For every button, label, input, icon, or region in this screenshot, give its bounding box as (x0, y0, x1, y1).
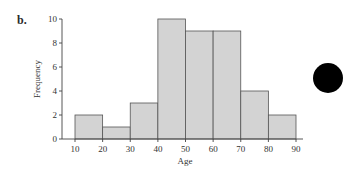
histogram-bar (103, 127, 131, 139)
x-tick-label: 70 (236, 144, 246, 154)
y-axis-title: Frequency (32, 60, 42, 98)
histogram-bars (75, 19, 296, 139)
histogram-bar (130, 103, 158, 139)
y-tick-label: 4 (53, 86, 58, 96)
x-tick-label: 90 (292, 144, 302, 154)
y-tick-label: 8 (53, 38, 58, 48)
y-tick-label: 2 (53, 110, 58, 120)
x-tick-label: 80 (264, 144, 274, 154)
histogram-bar (75, 115, 103, 139)
histogram-bar (268, 115, 296, 139)
y-tick-label: 10 (48, 14, 58, 24)
x-axis-title: Age (178, 156, 193, 166)
black-circle-marker (313, 63, 343, 93)
y-tick-label: 6 (53, 62, 58, 72)
x-tick-label: 60 (209, 144, 219, 154)
histogram-chart: 0246810102030405060708090 Age Frequency (0, 0, 360, 176)
histogram-bar (158, 19, 186, 139)
histogram-bar (186, 31, 214, 139)
x-tick-label: 50 (181, 144, 191, 154)
x-tick-label: 10 (71, 144, 81, 154)
y-tick-label: 0 (53, 134, 58, 144)
x-tick-label: 40 (153, 144, 163, 154)
x-tick-label: 30 (126, 144, 136, 154)
x-tick-label: 20 (98, 144, 108, 154)
histogram-bar (241, 91, 269, 139)
histogram-bar (213, 31, 241, 139)
